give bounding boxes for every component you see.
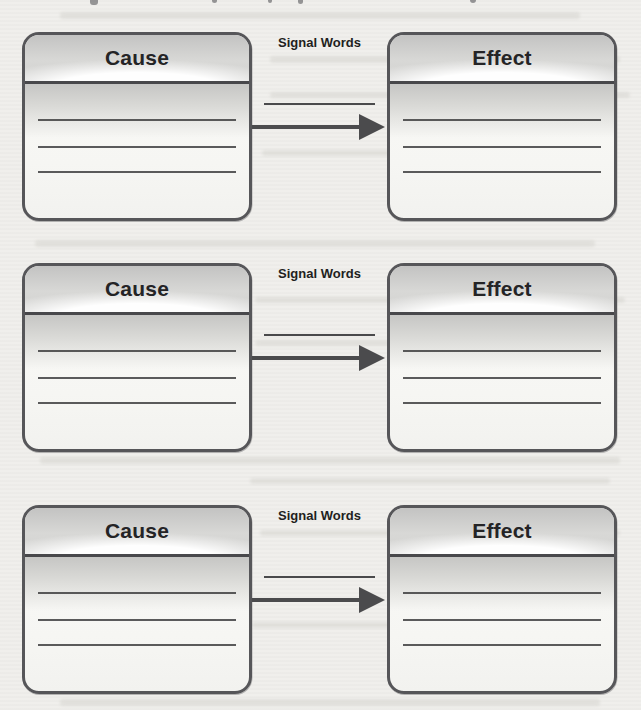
effect-box: Effect <box>387 263 617 452</box>
cause-effect-row: Cause Signal Words Effect <box>0 263 641 453</box>
cause-effect-arrow <box>252 505 387 695</box>
scan-bleed-artifact <box>250 478 610 484</box>
cropped-text-remnant <box>470 0 476 3</box>
writing-line <box>403 350 601 352</box>
writing-line <box>403 171 601 173</box>
cause-box-title: Cause <box>105 519 169 543</box>
cropped-text-remnant <box>90 0 98 5</box>
arrow-right-icon <box>359 345 385 371</box>
writing-line <box>38 377 236 379</box>
box-shading-band <box>390 315 614 369</box>
cause-box-header: Cause <box>25 266 249 312</box>
writing-line <box>38 619 236 621</box>
arrow-shaft <box>252 125 360 129</box>
writing-line <box>38 119 236 121</box>
cause-effect-row: Cause Signal Words Effect <box>0 505 641 695</box>
worksheet-page: { "organizer": { "rows": [ {"cause_label… <box>0 0 641 710</box>
scan-bleed-artifact <box>35 240 595 247</box>
cause-effect-connector: Signal Words <box>252 505 387 695</box>
writing-line <box>403 146 601 148</box>
effect-box: Effect <box>387 505 617 694</box>
effect-box-header: Effect <box>390 508 614 554</box>
cause-box-header: Cause <box>25 35 249 81</box>
effect-box-title: Effect <box>472 46 532 70</box>
writing-line <box>403 592 601 594</box>
writing-line <box>403 402 601 404</box>
cause-effect-row: Cause Signal Words Effect <box>0 32 641 222</box>
writing-line <box>403 377 601 379</box>
effect-box-title: Effect <box>472 519 532 543</box>
cause-effect-connector: Signal Words <box>252 263 387 453</box>
writing-line <box>38 171 236 173</box>
cause-effect-connector: Signal Words <box>252 32 387 222</box>
cropped-text-remnant <box>268 0 272 3</box>
writing-line <box>38 592 236 594</box>
cause-effect-arrow <box>252 263 387 453</box>
scan-bleed-artifact <box>40 457 620 464</box>
writing-line <box>38 146 236 148</box>
scan-bleed-artifact <box>60 12 580 19</box>
cropped-text-remnant <box>212 0 217 3</box>
writing-line <box>38 350 236 352</box>
box-shading-band <box>390 557 614 611</box>
arrow-right-icon <box>359 114 385 140</box>
arrow-right-icon <box>359 587 385 613</box>
writing-line <box>38 644 236 646</box>
arrow-shaft <box>252 356 360 360</box>
effect-box-title: Effect <box>472 277 532 301</box>
arrow-shaft <box>252 598 360 602</box>
writing-line <box>403 644 601 646</box>
cause-box-header: Cause <box>25 508 249 554</box>
writing-line <box>38 402 236 404</box>
cause-box-title: Cause <box>105 277 169 301</box>
cropped-text-remnant <box>298 0 303 4</box>
scan-bleed-artifact <box>60 699 600 706</box>
effect-box-header: Effect <box>390 35 614 81</box>
cause-box-title: Cause <box>105 46 169 70</box>
box-shading-band <box>25 315 249 369</box>
cause-box: Cause <box>22 32 252 221</box>
cause-box: Cause <box>22 263 252 452</box>
effect-box: Effect <box>387 32 617 221</box>
box-shading-band <box>25 84 249 138</box>
writing-line <box>403 119 601 121</box>
box-shading-band <box>390 84 614 138</box>
writing-line <box>403 619 601 621</box>
cause-effect-arrow <box>252 32 387 222</box>
effect-box-header: Effect <box>390 266 614 312</box>
cause-box: Cause <box>22 505 252 694</box>
box-shading-band <box>25 557 249 611</box>
